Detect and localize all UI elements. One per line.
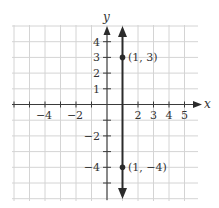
x-axis-arrow-icon [193, 101, 202, 108]
point-1-neg4 [120, 165, 126, 171]
y-tick-label: −4 [84, 161, 100, 174]
line-up-arrow-icon [118, 26, 127, 37]
x-tick-label: 3 [150, 109, 157, 122]
x-tick-label: −4 [36, 109, 52, 122]
point-1-3-label: (1, 3) [128, 51, 158, 64]
x-axis-label: x [204, 97, 211, 111]
y-tick-label: −2 [84, 130, 100, 143]
y-tick-label: 3 [93, 51, 100, 64]
point-1-neg4-label: (1, −4) [128, 161, 167, 174]
x-tick-label: 2 [135, 109, 142, 122]
y-axis-label: y [102, 10, 110, 24]
x-tick-label: 4 [166, 109, 173, 122]
coordinate-plane: x y −4−223454321−2−4 (1, 3) (1, −4) [0, 0, 219, 208]
y-tick-label: 4 [93, 36, 100, 49]
x-tick-label: −2 [67, 109, 83, 122]
line-down-arrow-icon [118, 188, 127, 199]
y-tick-label: 2 [93, 67, 100, 80]
y-axis-arrow-icon [104, 26, 111, 35]
point-1-3 [120, 55, 126, 61]
x-tick-label: 5 [181, 109, 188, 122]
y-tick-label: 1 [93, 83, 100, 96]
